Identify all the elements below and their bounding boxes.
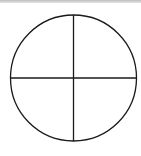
quadrant-circle-diagram: [0, 0, 141, 156]
